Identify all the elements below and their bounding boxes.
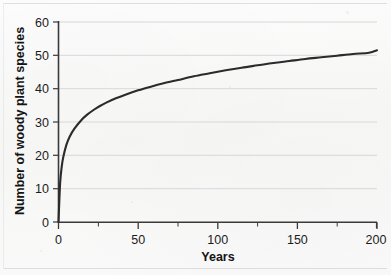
y-axis-title: Number of woody plant species bbox=[13, 27, 27, 215]
y-tick-label-10: 10 bbox=[35, 182, 49, 196]
y-axis-ticks bbox=[53, 22, 58, 222]
figure-canvas: 0 10 20 30 40 50 60 0 50 100 150 200 Yea… bbox=[0, 0, 391, 275]
y-tick-label-50: 50 bbox=[35, 49, 49, 63]
x-tick-label-150: 150 bbox=[287, 233, 308, 247]
x-axis-title: Years bbox=[201, 250, 234, 264]
y-tick-label-30: 30 bbox=[35, 116, 49, 130]
species-accumulation-chart: 0 10 20 30 40 50 60 0 50 100 150 200 Yea… bbox=[0, 0, 391, 275]
x-tick-label-200: 200 bbox=[366, 233, 387, 247]
species-curve bbox=[59, 50, 378, 222]
y-tick-label-40: 40 bbox=[35, 82, 49, 96]
y-axis-tick-labels: 0 10 20 30 40 50 60 bbox=[35, 16, 49, 230]
x-tick-label-50: 50 bbox=[131, 233, 145, 247]
x-tick-label-0: 0 bbox=[55, 233, 62, 247]
x-tick-label-100: 100 bbox=[207, 233, 228, 247]
x-axis-major-ticks bbox=[59, 222, 378, 229]
gridlines bbox=[58, 22, 377, 189]
y-tick-label-60: 60 bbox=[35, 16, 49, 30]
axes bbox=[58, 21, 377, 228]
x-axis-tick-labels: 0 50 100 150 200 bbox=[55, 233, 386, 247]
y-tick-label-20: 20 bbox=[35, 149, 49, 163]
y-tick-label-0: 0 bbox=[42, 216, 49, 230]
